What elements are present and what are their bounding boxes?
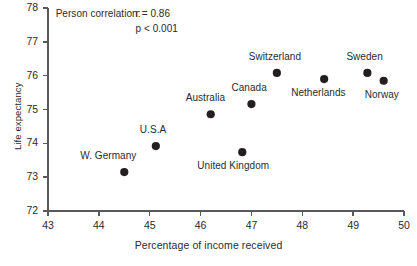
data-point-marker bbox=[363, 69, 371, 77]
x-tick-label-47: 47 bbox=[238, 219, 264, 231]
data-point-marker bbox=[152, 142, 160, 150]
data-point-marker bbox=[247, 100, 255, 108]
data-point-marker bbox=[320, 75, 328, 83]
x-tick-label-46: 46 bbox=[188, 219, 214, 231]
y-tick-label-72: 72 bbox=[12, 204, 38, 216]
data-point-label: Sweden bbox=[346, 51, 382, 62]
data-point-marker bbox=[207, 110, 215, 118]
data-point-marker bbox=[120, 168, 128, 176]
stat-annotation: Person correlation: bbox=[56, 8, 141, 19]
data-point-label: Netherlands bbox=[291, 87, 345, 98]
stat-annotation: r = 0.86 bbox=[135, 8, 170, 19]
y-tick-label-77: 77 bbox=[12, 35, 38, 47]
data-point-label: Norway bbox=[365, 89, 399, 100]
data-point-label: U.S.A bbox=[140, 124, 166, 135]
data-point-marker bbox=[273, 69, 281, 77]
data-point-marker bbox=[380, 77, 388, 85]
x-axis-title: Percentage of income received bbox=[0, 239, 417, 251]
x-tick-label-50: 50 bbox=[391, 219, 417, 231]
data-point-label: Switzerland bbox=[249, 51, 301, 62]
y-tick-label-78: 78 bbox=[12, 1, 38, 13]
y-axis-title: Life expectancy bbox=[12, 82, 23, 150]
x-tick-label-49: 49 bbox=[340, 219, 366, 231]
data-point-label: Canada bbox=[231, 82, 266, 93]
axes-group bbox=[48, 8, 404, 211]
y-tick-label-73: 73 bbox=[12, 170, 38, 182]
x-tick-label-48: 48 bbox=[289, 219, 315, 231]
data-point-marker bbox=[238, 148, 246, 156]
x-tick-label-44: 44 bbox=[86, 219, 112, 231]
x-tick-label-45: 45 bbox=[137, 219, 163, 231]
scatter-plot-figure: 727374757677784344454647484950W. Germany… bbox=[0, 0, 417, 266]
data-point-label: W. Germany bbox=[80, 150, 136, 161]
stat-annotation: p < 0.001 bbox=[135, 23, 177, 34]
axis-ticks-group bbox=[43, 8, 404, 216]
data-point-label: Australia bbox=[186, 92, 225, 103]
x-tick-label-43: 43 bbox=[35, 219, 61, 231]
data-point-label: United Kingdom bbox=[197, 160, 269, 171]
y-tick-label-76: 76 bbox=[12, 69, 38, 81]
